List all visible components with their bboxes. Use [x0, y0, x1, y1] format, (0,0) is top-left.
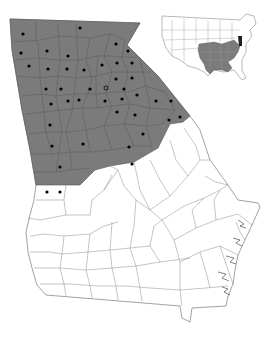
us-inset-map [162, 14, 256, 80]
georgia-map [0, 0, 277, 338]
occurrence-dot [78, 26, 81, 29]
occurrence-dot [133, 113, 136, 116]
occurrence-dot [81, 142, 84, 145]
occurrence-dot [120, 97, 123, 100]
occurrence-dot [66, 99, 69, 102]
occurrence-dot [130, 76, 133, 79]
occurrence-dot [58, 190, 61, 193]
occurrence-dot [77, 98, 80, 101]
occurrence-dot [100, 63, 103, 66]
occurrence-dot [114, 42, 117, 45]
occurrence-dot [115, 110, 118, 113]
occurrence-dot [130, 61, 133, 64]
occurrence-dot [65, 67, 68, 70]
occurrence-dot [122, 87, 125, 90]
distribution-map [0, 0, 277, 338]
occurrence-dot [115, 61, 118, 64]
occurrence-dot [130, 162, 133, 165]
occurrence-dot [126, 49, 129, 52]
occurrence-dot [141, 132, 144, 135]
occurrence-dot [135, 93, 138, 96]
occurrence-dot [127, 145, 130, 148]
occurrence-dot [82, 68, 85, 71]
occurrence-dot [21, 32, 24, 35]
occurrence-dot [178, 115, 181, 118]
occurrence-dot [66, 54, 69, 57]
occurrence-dot [48, 123, 51, 126]
occurrence-dot [167, 118, 170, 121]
occurrence-dot [114, 77, 117, 80]
occurrence-dot [59, 87, 62, 90]
occurrence-dot [103, 99, 106, 102]
occurrence-dot [27, 64, 30, 67]
occurrence-dot [154, 99, 157, 102]
occurrence-dot [44, 87, 47, 90]
occurrence-dot [46, 67, 49, 70]
occurrence-dot [169, 99, 172, 102]
occurrence-dot [88, 87, 91, 90]
occurrence-dot [58, 165, 61, 168]
occurrence-dot [45, 190, 48, 193]
occurrence-dot [50, 144, 53, 147]
occurrence-dot [19, 51, 22, 54]
occurrence-dot [49, 102, 52, 105]
occurrence-dot [45, 49, 48, 52]
